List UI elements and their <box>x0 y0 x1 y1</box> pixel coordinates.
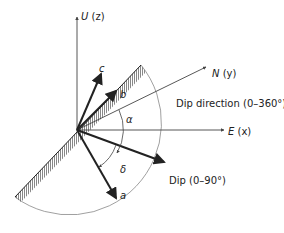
orientation-diagram: U (z) N (y) E (x) c b a α δ Dip directio… <box>0 0 284 233</box>
up-axis-label: U (z) <box>81 11 105 22</box>
east-axis-label: E (x) <box>228 126 251 137</box>
vector-b <box>77 91 116 130</box>
alpha-label: α <box>126 114 133 125</box>
north-axis-label: N (y) <box>212 68 236 79</box>
plane-arc <box>15 65 161 215</box>
delta-label: δ <box>120 164 126 175</box>
dip-direction-label: Dip direction (0–360°) <box>176 98 284 109</box>
vector-a <box>77 130 116 198</box>
plane-hatching <box>15 65 146 202</box>
delta-arc <box>99 145 116 167</box>
dip-label: Dip (0–90°) <box>169 175 226 186</box>
vector-c-label: c <box>99 63 105 74</box>
vector-a-label: a <box>120 190 126 201</box>
vector-b-label: b <box>120 89 126 100</box>
